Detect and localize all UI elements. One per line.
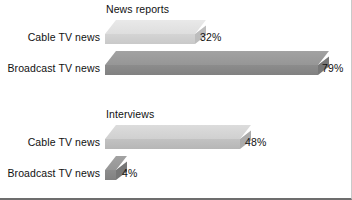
chart-panel-interviews: Interviews Cable TV news 48% Broadcast T… [0, 104, 352, 200]
bar-front-face [105, 139, 240, 149]
chart-figure: News reports Cable TV news 32% Broadcast… [0, 0, 352, 200]
category-label-broadcast-tv-news: Broadcast TV news [7, 62, 100, 74]
panel-title-interviews: Interviews [106, 108, 154, 120]
bar-top-face [105, 51, 329, 65]
value-label-interviews-broadcast-tv-news: 4% [122, 167, 137, 179]
chart-panel-news-reports: News reports Cable TV news 32% Broadcast… [0, 0, 352, 104]
category-label-cable-tv-news: Cable TV news [28, 31, 100, 43]
panel-title-news-reports: News reports [106, 3, 169, 15]
category-label-broadcast-tv-news: Broadcast TV news [7, 167, 100, 179]
bar-top-face [105, 20, 206, 34]
bar-front-face [105, 34, 195, 44]
category-label-cable-tv-news: Cable TV news [28, 136, 100, 148]
value-label-interviews-cable-tv-news: 48% [245, 136, 266, 148]
bar-front-face [105, 170, 116, 180]
bar-front-face [105, 65, 318, 75]
value-label-news-broadcast-tv-news: 79% [322, 62, 343, 74]
value-label-news-cable-tv-news: 32% [200, 31, 221, 43]
bar-top-face [105, 125, 251, 139]
